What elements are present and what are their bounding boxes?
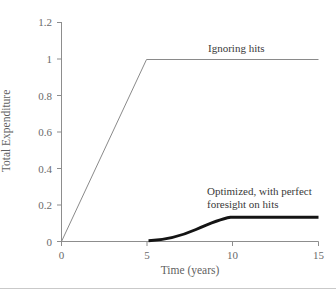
bottom-divider bbox=[0, 288, 336, 289]
x-tick-label-10: 10 bbox=[227, 250, 238, 261]
y-tick-label-1: 1 bbox=[28, 54, 52, 65]
y-tick-label-0-2: 0.2 bbox=[28, 200, 52, 211]
series-ignoring-hits-line bbox=[62, 60, 319, 242]
chart-figure: 1.2 1 0.8 0.6 0.4 0.2 0 0 5 10 15 Total … bbox=[0, 0, 336, 292]
annotation-optimized-line1: Optimized, with perfect bbox=[207, 185, 312, 198]
y-tick-label-0: 0 bbox=[28, 236, 52, 247]
x-tick-label-5: 5 bbox=[144, 250, 150, 261]
y-axis-ticks bbox=[57, 23, 62, 242]
y-tick-label-0-8: 0.8 bbox=[28, 90, 52, 101]
x-tick-label-0: 0 bbox=[59, 250, 65, 261]
annotation-optimized-line2: foresight on hits bbox=[207, 198, 312, 211]
x-axis-title: Time (years) bbox=[161, 264, 220, 276]
y-tick-label-0-4: 0.4 bbox=[28, 163, 52, 174]
y-tick-label-1-2: 1.2 bbox=[28, 17, 52, 28]
x-tick-label-15: 15 bbox=[313, 250, 324, 261]
chart-plot-area bbox=[0, 0, 336, 292]
annotation-optimized: Optimized, with perfect foresight on hit… bbox=[207, 185, 312, 212]
annotation-ignoring-hits: Ignoring hits bbox=[208, 42, 265, 55]
y-axis-title: Total Expenditure bbox=[0, 90, 12, 173]
x-axis-ticks bbox=[62, 242, 319, 247]
series-optimized-line bbox=[149, 217, 319, 241]
y-tick-label-0-6: 0.6 bbox=[28, 127, 52, 138]
